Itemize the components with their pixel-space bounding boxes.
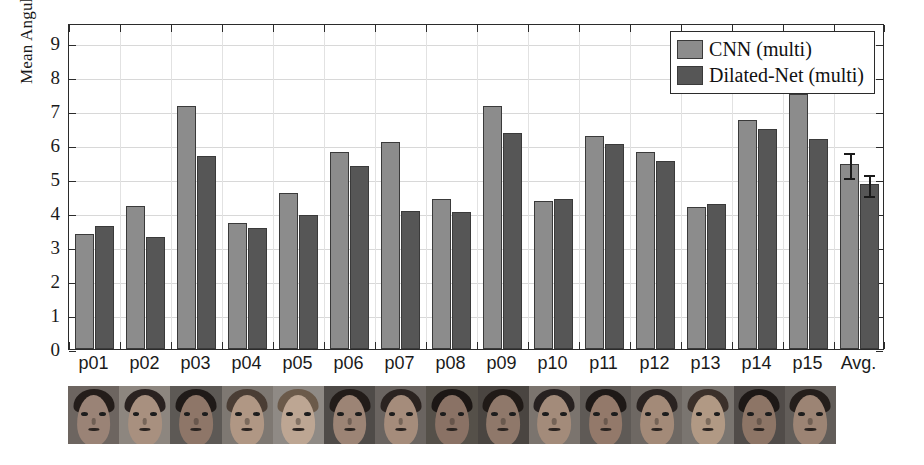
x-axis-tick-label-p01: p01 <box>68 352 119 374</box>
face-p07 <box>375 386 426 444</box>
figure-bar-chart-mean-angular-error: Mean Angular Error (degree) 0123456789 C… <box>0 0 924 465</box>
bar-p08-dilated-net <box>452 212 472 349</box>
bar-p08-cnn <box>432 199 452 349</box>
face-p01 <box>68 386 119 444</box>
left-eye <box>747 412 754 416</box>
face-p12 <box>631 386 682 444</box>
x-axis-tick-label-p03: p03 <box>170 352 221 374</box>
x-axis-tick-label-p08: p08 <box>425 352 476 374</box>
nose <box>347 418 352 424</box>
y-axis-tick-label: 2 <box>20 272 60 291</box>
legend-swatch-dilated-net <box>677 66 703 85</box>
face-p04 <box>222 386 273 444</box>
mouth <box>446 428 457 431</box>
bar-p11-dilated-net <box>605 144 625 349</box>
left-eye <box>542 412 549 416</box>
bar-p11-cnn <box>585 136 605 349</box>
bar-p04-cnn <box>228 223 248 349</box>
error-bar-cap-upper <box>864 175 875 177</box>
y-axis-tick-label: 4 <box>20 204 60 223</box>
nose <box>552 418 557 424</box>
face-thumbnail-strip <box>68 386 836 444</box>
y-axis-tick-label: 9 <box>20 34 60 53</box>
mouth <box>293 428 304 431</box>
x-axis-tick-label-p07: p07 <box>374 352 425 374</box>
bar-p03-cnn <box>177 106 197 349</box>
bar-p13-cnn <box>687 207 707 349</box>
bar-p01-cnn <box>75 234 95 349</box>
x-axis-tick-top <box>884 25 885 32</box>
face-p14 <box>734 386 785 444</box>
bar-p02-cnn <box>126 206 146 349</box>
nose <box>808 418 813 424</box>
x-axis-tick-label-p04: p04 <box>221 352 272 374</box>
legend: CNN (multi) Dilated-Net (multi) <box>670 31 875 94</box>
y-axis-tick-label: 6 <box>20 136 60 155</box>
bar-p13-dilated-net <box>707 204 727 349</box>
bar-p15-cnn <box>789 94 809 349</box>
bar-p12-dilated-net <box>656 161 676 349</box>
mouth <box>702 428 713 431</box>
mouth <box>242 428 253 431</box>
bar-p01-dilated-net <box>95 226 115 349</box>
legend-label-cnn: CNN (multi) <box>709 38 812 60</box>
error-bar-cap-lower <box>844 178 855 180</box>
nose <box>296 418 301 424</box>
error-bar-line <box>869 175 871 195</box>
mouth <box>600 428 611 431</box>
mouth <box>498 428 509 431</box>
right-eye <box>304 412 311 416</box>
right-eye <box>816 412 823 416</box>
y-axis-tick-label: 1 <box>20 306 60 325</box>
x-axis-tick-label-p09: p09 <box>476 352 527 374</box>
mouth <box>754 428 765 431</box>
y-axis-tick-label: 0 <box>20 340 60 359</box>
x-axis-tick-label-p06: p06 <box>323 352 374 374</box>
x-axis-tick-label-p02: p02 <box>119 352 170 374</box>
x-axis-tick-bottom <box>884 342 885 349</box>
mouth <box>190 428 201 431</box>
face-p06 <box>324 386 375 444</box>
nose <box>501 418 506 424</box>
error-bar-line <box>850 153 852 177</box>
bar-p09-cnn <box>483 106 503 349</box>
x-axis-tick-label-avg: Avg. <box>833 352 884 374</box>
y-axis-tick-label: 3 <box>20 238 60 257</box>
bar-avg-cnn <box>840 164 860 349</box>
mouth <box>805 428 816 431</box>
face-p09 <box>478 386 529 444</box>
bar-p05-dilated-net <box>299 215 319 349</box>
mouth <box>651 428 662 431</box>
left-eye <box>491 412 498 416</box>
face-p13 <box>682 386 733 444</box>
face-p15 <box>785 386 836 444</box>
x-axis-tick-label-p13: p13 <box>680 352 731 374</box>
legend-item-dilated-net: Dilated-Net (multi) <box>677 62 864 88</box>
legend-label-dilated-net: Dilated-Net (multi) <box>709 64 864 86</box>
plot-area: CNN (multi) Dilated-Net (multi) <box>68 24 884 350</box>
bar-p06-dilated-net <box>350 166 370 349</box>
x-axis-tick-label-p12: p12 <box>629 352 680 374</box>
face-p05 <box>273 386 324 444</box>
nose <box>757 418 762 424</box>
legend-swatch-cnn <box>677 40 703 59</box>
face-p08 <box>426 386 477 444</box>
bar-p05-cnn <box>279 193 299 349</box>
face-p02 <box>119 386 170 444</box>
nose <box>706 418 711 424</box>
mouth <box>344 428 355 431</box>
y-axis-tick-label: 5 <box>20 170 60 189</box>
bar-p15-dilated-net <box>809 139 829 349</box>
y-axis-tick-label: 8 <box>20 68 60 87</box>
bar-p02-dilated-net <box>146 237 166 349</box>
error-bar-cap-lower <box>864 196 875 198</box>
nose <box>655 418 660 424</box>
bar-p10-cnn <box>534 201 554 349</box>
bar-p04-dilated-net <box>248 228 268 349</box>
mouth <box>139 428 150 431</box>
bar-p06-cnn <box>330 152 350 349</box>
x-axis-tick-label-p05: p05 <box>272 352 323 374</box>
mouth <box>88 428 99 431</box>
bar-p12-cnn <box>636 152 656 349</box>
right-eye <box>509 412 516 416</box>
